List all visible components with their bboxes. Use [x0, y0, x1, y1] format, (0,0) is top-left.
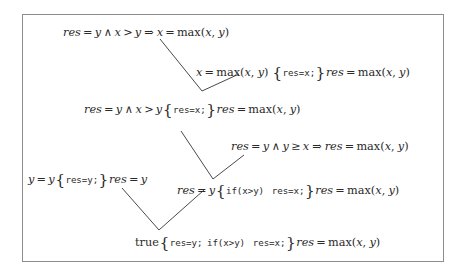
- n2-close2: ): [406, 66, 410, 79]
- n7-code-assign-y: res=y;: [170, 237, 203, 248]
- n3-wedge: ∧: [125, 103, 133, 116]
- figure-border: [22, 14, 444, 262]
- n6-eq2: =: [335, 184, 344, 197]
- n3-gt: >: [144, 103, 153, 116]
- n7-close: ): [376, 236, 380, 249]
- n5-brace-close: }: [99, 171, 109, 189]
- n2-comma1: ,: [251, 66, 255, 79]
- proof-node-premise-1: res=y∧x>y⇒x=max(x,y): [63, 27, 229, 38]
- n1-x1: x: [115, 26, 121, 39]
- n6-res2: res: [315, 184, 333, 197]
- n7-brace-open: {: [159, 234, 169, 252]
- n3-comma: ,: [283, 103, 287, 116]
- n1-x2: x: [157, 26, 163, 39]
- n6-brace-close: }: [305, 182, 315, 200]
- n3-max: max: [248, 103, 272, 116]
- proof-node-triple-6: res=y{if(x>y)res=x;}res=max(x,y): [177, 182, 399, 198]
- proof-node-triple-3: res=y∧x>y{res=x;}res=max(x,y): [84, 101, 301, 117]
- n6-res1: res: [177, 184, 195, 197]
- n5-y1: y: [28, 173, 34, 186]
- n7-comma: ,: [363, 236, 367, 249]
- n7-res: res: [296, 236, 314, 249]
- n5-eq2: =: [129, 173, 138, 186]
- n4-eq2: =: [345, 140, 354, 153]
- n3-res: res: [84, 103, 102, 116]
- n2-pre-x: x: [196, 66, 202, 79]
- n1-max: max: [177, 26, 201, 39]
- n7-code-assign-x: res=x;: [253, 237, 286, 248]
- n3-brace-close: }: [206, 101, 216, 119]
- n5-code: res=y;: [66, 174, 99, 185]
- n6-y1: y: [209, 184, 215, 197]
- n7-max: max: [328, 236, 352, 249]
- n1-gt: >: [123, 26, 132, 39]
- n3-close: ): [296, 103, 300, 116]
- n2-close1: ): [264, 66, 268, 79]
- n5-brace-open: {: [55, 171, 65, 189]
- n3-eq1: =: [104, 103, 113, 116]
- n1-y1: y: [95, 26, 101, 39]
- proof-node-conclusion-7: true{res=y;if(x>y)res=x;}res=max(x,y): [135, 234, 380, 250]
- n3-y2: y: [156, 103, 162, 116]
- n2-code: res=x;: [283, 67, 316, 78]
- n5-y3: y: [141, 173, 147, 186]
- n3-post-res: res: [217, 103, 235, 116]
- n1-close: ): [225, 26, 229, 39]
- n3-eq2: =: [237, 103, 246, 116]
- n1-y2: y: [135, 26, 141, 39]
- n3-brace-open: {: [163, 101, 173, 119]
- n2-brace-close: }: [316, 64, 326, 82]
- n6-max: max: [347, 184, 371, 197]
- n1-eq2: =: [165, 26, 174, 39]
- n3-x1: x: [136, 103, 142, 116]
- n6-code-if: if(x>y): [226, 185, 264, 196]
- n1-res: res: [63, 26, 81, 39]
- proof-node-premise-4: res=y∧y≥x⇒res=max(x,y): [231, 141, 409, 152]
- n3-y1: y: [116, 103, 122, 116]
- proof-figure-root: res=y∧x>y⇒x=max(x,y) x=max(x,y){res=x;}r…: [0, 0, 458, 276]
- n4-eq1: =: [251, 140, 260, 153]
- n4-y2: y: [283, 140, 289, 153]
- n4-y1: y: [263, 140, 269, 153]
- n1-eq1: =: [83, 26, 92, 39]
- n2-brace-open: {: [272, 64, 282, 82]
- n2-eq2: =: [346, 66, 355, 79]
- n2-max2: max: [358, 66, 382, 79]
- n6-comma: ,: [382, 184, 386, 197]
- n1-comma: ,: [212, 26, 216, 39]
- n6-close: ): [395, 184, 399, 197]
- n4-wedge: ∧: [272, 140, 280, 153]
- proof-node-triple-2: x=max(x,y){res=x;}res=max(x,y): [196, 64, 410, 80]
- n7-code-if: if(x>y): [207, 237, 245, 248]
- n7-true: true: [135, 236, 159, 249]
- n1-wedge: ∧: [104, 26, 112, 39]
- n4-res1: res: [231, 140, 249, 153]
- n5-res: res: [109, 173, 127, 186]
- n2-max1: max: [216, 66, 240, 79]
- n2-comma2: ,: [392, 66, 396, 79]
- proof-node-triple-5: y=y{res=y;}res=y: [28, 171, 147, 187]
- n6-brace-open: {: [216, 182, 226, 200]
- n2-post-res: res: [326, 66, 344, 79]
- n6-code-assign: res=x;: [272, 185, 305, 196]
- n5-y2: y: [48, 173, 54, 186]
- n4-comma: ,: [391, 140, 395, 153]
- n7-brace-close: }: [286, 234, 296, 252]
- n1-implies: ⇒: [144, 26, 153, 39]
- n3-code: res=x;: [173, 104, 206, 115]
- n4-close: ): [404, 140, 408, 153]
- n2-eq1: =: [205, 66, 214, 79]
- n5-eq1: =: [37, 173, 46, 186]
- n7-eq: =: [316, 236, 325, 249]
- n4-x1: x: [303, 140, 309, 153]
- n4-geq: ≥: [291, 140, 300, 153]
- n4-max: max: [356, 140, 380, 153]
- n6-eq1: =: [197, 184, 206, 197]
- n4-res2: res: [325, 140, 343, 153]
- n4-implies: ⇒: [312, 140, 321, 153]
